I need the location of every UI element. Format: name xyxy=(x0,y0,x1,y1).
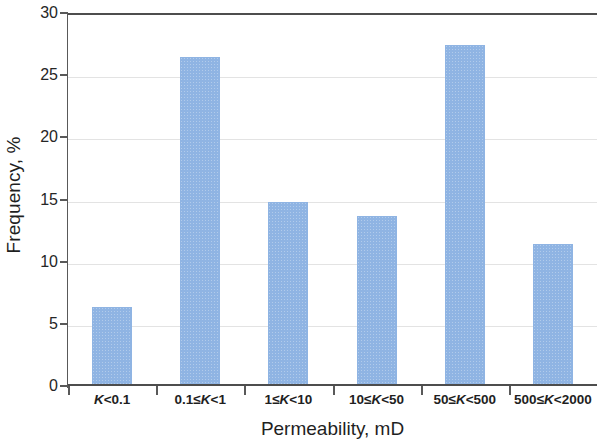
y-axis-tick-mark xyxy=(60,385,68,387)
gridline xyxy=(68,264,597,265)
y-axis-title: Frequency, % xyxy=(0,0,26,390)
x-axis-tick-label: 10≤K<50 xyxy=(349,392,404,407)
y-axis-tick-mark xyxy=(60,261,68,263)
gridline xyxy=(68,77,597,78)
y-axis-tick-mark xyxy=(60,323,68,325)
bar xyxy=(533,244,573,384)
y-axis-tick-mark xyxy=(60,136,68,138)
bar xyxy=(92,307,132,384)
y-axis-tick-label: 10 xyxy=(40,253,58,271)
x-axis-tick-label: 500≤K<2000 xyxy=(514,392,592,407)
x-axis-title-label: Permeability, mD xyxy=(261,418,404,439)
x-axis-tick-labels: K<0.10.1≤K<11≤K<1010≤K<5050≤K<500500≤K<2… xyxy=(68,392,597,414)
plot-area xyxy=(68,13,597,386)
bar xyxy=(357,216,397,384)
y-axis-tick-label: 0 xyxy=(49,377,58,395)
y-axis-tick-label: 25 xyxy=(40,66,58,84)
gridline xyxy=(68,139,597,140)
bar xyxy=(445,45,485,384)
x-axis-tick-label: 1≤K<10 xyxy=(265,392,313,407)
gridline xyxy=(68,202,597,203)
x-axis-tick-label: 50≤K<500 xyxy=(433,392,496,407)
y-axis-title-label: Frequency, % xyxy=(2,136,24,253)
gridline xyxy=(68,326,597,327)
x-axis-title: Permeability, mD xyxy=(68,418,597,440)
y-axis-tick-label: 5 xyxy=(49,315,58,333)
y-axis-tick-labels: 051015202530 xyxy=(26,0,62,400)
y-axis-tick-label: 30 xyxy=(40,4,58,22)
bar xyxy=(180,57,220,384)
y-axis-tick-label: 15 xyxy=(40,191,58,209)
x-axis-tick-label: 0.1≤K<1 xyxy=(175,392,226,407)
x-axis-tick-label: K<0.1 xyxy=(94,392,130,407)
y-axis-tick-mark xyxy=(60,199,68,201)
bar xyxy=(268,202,308,384)
y-axis-tick-mark xyxy=(60,12,68,14)
y-axis-tick-mark xyxy=(60,74,68,76)
bar-chart-figure: Frequency, % 051015202530 K<0.10.1≤K<11≤… xyxy=(0,0,597,447)
y-axis-tick-label: 20 xyxy=(40,128,58,146)
